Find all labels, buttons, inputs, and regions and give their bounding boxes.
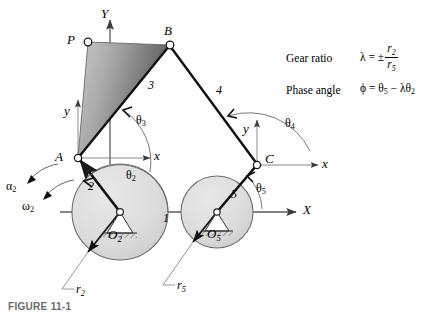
- gear-ratio-fraction: r2r5: [385, 42, 397, 72]
- label-axis-global-X: X: [303, 203, 311, 216]
- label-theta4: θ4: [285, 117, 295, 132]
- label-link-3: 3: [148, 79, 154, 91]
- label-theta5: θ5: [256, 182, 266, 197]
- label-axis-global-Y: Y: [101, 7, 108, 20]
- omega2-arrow: [43, 180, 74, 200]
- equation-gear-ratio: Gear ratio λ = ±r2r5: [286, 43, 415, 73]
- label-link-1: 1: [163, 212, 169, 224]
- joint-B: [166, 41, 174, 49]
- joint-A: [74, 154, 81, 161]
- label-pivot-O5: O5: [207, 227, 221, 243]
- label-point-B: B: [164, 24, 172, 37]
- gear-ratio-label: Gear ratio: [286, 52, 360, 64]
- label-link-2: 2: [88, 180, 94, 192]
- label-point-A: A: [55, 150, 63, 163]
- label-omega2: ω2: [22, 200, 34, 215]
- equation-block: Gear ratio λ = ±r2r5 Phase angle ϕ = θ5 …: [286, 43, 415, 106]
- label-radius-r2: r2: [76, 283, 85, 298]
- label-axis-local-x-A: x: [154, 149, 160, 162]
- figure-container: P B A C O2 O5 2 3 4 1 5 Y X y x y x θ2 θ…: [0, 0, 446, 312]
- link-4: [170, 46, 257, 164]
- theta4-arc: [228, 109, 310, 151]
- label-pivot-O2: O2: [108, 228, 122, 244]
- gear-ratio-expression: λ = ±r2r5: [360, 43, 399, 73]
- fraction-numerator: r2: [385, 42, 397, 57]
- fraction-denominator: r5: [385, 57, 397, 73]
- label-point-P: P: [67, 33, 75, 46]
- label-theta2: θ2: [126, 169, 136, 184]
- label-axis-local-y-C: y: [243, 122, 249, 135]
- joint-P: [84, 38, 92, 46]
- label-axis-local-y-A: y: [64, 104, 70, 117]
- equation-phase-angle: Phase angle ϕ = θ5 − λθ2: [286, 82, 415, 96]
- phase-angle-label: Phase angle: [286, 84, 360, 96]
- label-link-4: 4: [216, 84, 222, 96]
- label-alpha2: α2: [6, 180, 16, 195]
- alpha2-arrow: [27, 164, 58, 184]
- figure-caption: FIGURE 11-1: [8, 301, 71, 312]
- joint-C: [253, 161, 260, 168]
- phase-angle-expression: ϕ = θ5 − λθ2: [360, 82, 415, 96]
- label-theta3: θ3: [136, 114, 146, 129]
- label-link-5: 5: [231, 188, 237, 200]
- label-axis-local-x-C: x: [322, 157, 328, 170]
- label-radius-r5: r5: [177, 279, 186, 294]
- label-point-C: C: [265, 152, 274, 165]
